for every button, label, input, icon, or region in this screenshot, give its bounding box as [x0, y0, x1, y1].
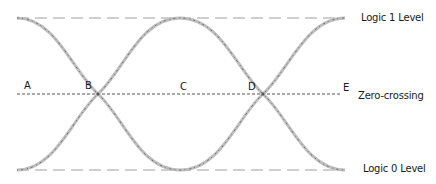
point-label-e: E: [343, 83, 349, 93]
crossing-point-b: [96, 92, 99, 95]
point-label-c: C: [180, 82, 187, 92]
point-label-b: B: [85, 81, 92, 91]
point-label-d: D: [248, 82, 256, 92]
logic1-level-label: Logic 1 Level: [361, 13, 424, 23]
point-label-a: A: [24, 81, 31, 91]
logic0-level-label: Logic 0 Level: [363, 164, 426, 174]
eye-trace-rising-falling: [17, 18, 345, 170]
eye-trace-falling-rising: [17, 18, 345, 170]
crossing-point-d: [261, 92, 264, 95]
zero-crossing-label: Zero-crossing: [358, 91, 424, 101]
